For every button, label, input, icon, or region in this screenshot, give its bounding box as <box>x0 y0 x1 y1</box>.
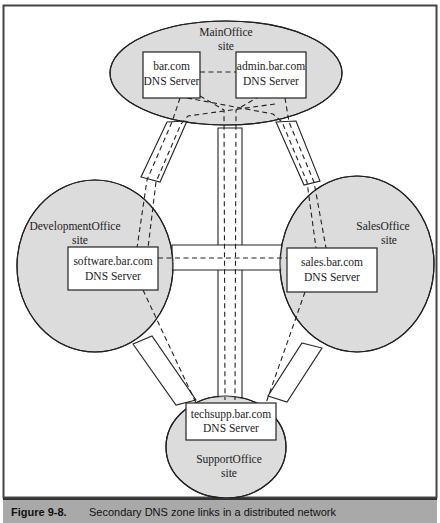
server-techsupp-bar-com: techsupp.bar.com DNS Server <box>186 403 276 440</box>
svg-text:site: site <box>218 40 234 52</box>
server-software-bar-com: software.bar.com DNS Server <box>68 247 158 290</box>
svg-text:site: site <box>221 467 237 479</box>
diagram-canvas: bar.com DNS Server admin.bar.com DNS Ser… <box>0 0 440 523</box>
svg-text:SupportOffice: SupportOffice <box>196 453 262 466</box>
server-domain: software.bar.com <box>73 255 152 267</box>
server-role: DNS Server <box>304 271 360 283</box>
network-diagram-figure: bar.com DNS Server admin.bar.com DNS Ser… <box>0 0 440 523</box>
svg-text:SalesOffice: SalesOffice <box>356 220 409 232</box>
svg-text:site: site <box>381 234 397 246</box>
figure-number: Figure 9-8. <box>11 506 89 518</box>
server-role: DNS Server <box>144 75 200 87</box>
svg-text:MainOffice: MainOffice <box>199 26 252 38</box>
svg-text:site: site <box>72 234 88 246</box>
server-domain: sales.bar.com <box>301 256 363 268</box>
server-role: DNS Server <box>243 75 299 87</box>
svg-text:DevelopmentOffice: DevelopmentOffice <box>29 220 120 233</box>
figure-caption: Figure 9-8. Secondary DNS zone links in … <box>3 498 437 523</box>
server-sales-bar-com: sales.bar.com DNS Server <box>287 248 377 292</box>
server-role: DNS Server <box>85 270 141 282</box>
server-domain: techsupp.bar.com <box>191 408 272 421</box>
server-admin-bar-com: admin.bar.com DNS Server <box>236 52 306 98</box>
figure-caption-text: Secondary DNS zone links in a distribute… <box>89 506 336 518</box>
server-role: DNS Server <box>203 422 259 434</box>
server-domain: admin.bar.com <box>237 60 305 72</box>
server-bar-com: bar.com DNS Server <box>143 52 200 98</box>
server-domain: bar.com <box>153 60 190 72</box>
